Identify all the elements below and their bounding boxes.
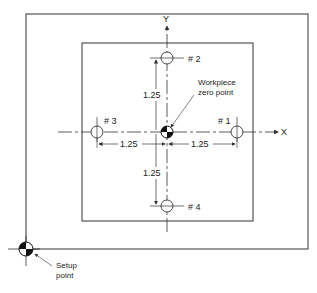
hole-1: # 1 [218, 116, 243, 142]
setup-point-label-1: Setup [56, 261, 77, 270]
setup-point-symbol [19, 242, 33, 256]
dim-right-value: 1.25 [191, 139, 209, 149]
machining-setup-diagram: X Y # 1 # 2 # 3 # 4 1.25 1.25 1.25 [0, 0, 317, 293]
y-axis-label: Y [163, 14, 169, 24]
setup-point-leader [35, 254, 52, 266]
hole-1-label: # 1 [218, 116, 231, 126]
workpiece-zero-label-2: zero point [198, 88, 234, 97]
workpiece-zero-leader [171, 95, 194, 127]
hole-4-label: # 4 [188, 202, 201, 212]
hole-2-label: # 2 [188, 54, 201, 64]
workpiece-zero-label-1: Workpiece [198, 78, 236, 87]
dim-down-value: 1.25 [143, 168, 161, 178]
hole-4: # 4 [150, 200, 201, 212]
hole-3: # 3 [91, 116, 117, 142]
hole-2: # 2 [150, 52, 201, 64]
workpiece-zero-symbol [161, 126, 173, 138]
dim-up-value: 1.25 [143, 90, 161, 100]
setup-point-label-2: point [56, 271, 74, 280]
dim-left-value: 1.25 [120, 139, 138, 149]
hole-3-label: # 3 [104, 116, 117, 126]
x-axis-label: X [281, 127, 287, 137]
